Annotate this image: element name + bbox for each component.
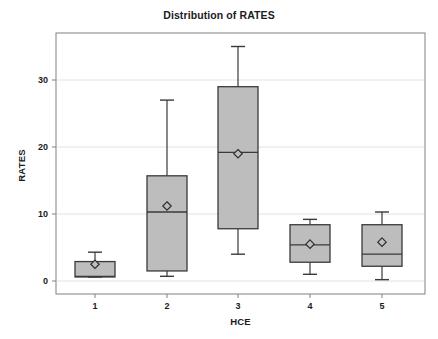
boxplot-chart: Distribution of RATES RATES HCE 0102030 … — [0, 0, 438, 339]
x-tick-label-2: 2 — [155, 301, 179, 311]
x-tick-label-1: 1 — [83, 301, 107, 311]
y-tick-label-20: 20 — [24, 142, 48, 152]
y-tick-label-30: 30 — [24, 75, 48, 85]
y-tick-label-10: 10 — [24, 209, 48, 219]
x-tick-label-5: 5 — [370, 301, 394, 311]
plot-area — [0, 0, 438, 339]
x-tick-label-4: 4 — [298, 301, 322, 311]
y-tick-label-0: 0 — [24, 276, 48, 286]
box-2 — [147, 176, 187, 271]
x-tick-label-3: 3 — [226, 301, 250, 311]
